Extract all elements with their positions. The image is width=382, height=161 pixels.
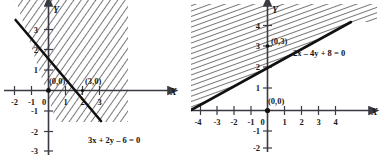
equation-label-left: 3x + 2y – 6 = 0 [88,135,140,145]
point-label-right: (0,3) [271,36,287,46]
y-axis-name-right: Y [272,4,279,15]
x-tick-label-right-6: 2 [299,117,303,127]
x-tick-label-right-5: 1 [282,117,286,127]
two-panel-inequality-figure: -2 -1 0 1 2 3 3 2 1 -1 -2 -3 [0,0,382,161]
equation-label-right: 2x – 4y + 8 = 0 [293,48,345,58]
y-tick-label-left-2: 1 [34,65,38,75]
intercept-point-right [266,44,270,48]
x-axis-name-left: X [169,86,177,97]
x-tick-label-right-1: -3 [213,117,220,127]
intercept-point-left [81,89,84,92]
y-tick-label-left-3: -1 [31,106,38,116]
graph-panel-right: -4 -3 -2 -1 0 1 2 3 4 4 3 2 1 -1 -2 [191,0,382,161]
x-tick-label-left-0: -2 [11,97,18,107]
x-tick-label-left-2: 0 [42,97,46,107]
left-graph-svg: -2 -1 0 1 2 3 3 2 1 -1 -2 -3 [0,0,191,161]
y-tick-label-left-4: -2 [31,127,38,137]
origin-point-left [46,88,51,93]
x-tick-label-right-7: 3 [316,117,320,127]
x-tick-label-right-0: -4 [194,117,202,127]
y-tick-label-right-4: -1 [253,126,260,136]
origin-label-right: (0,0) [268,96,284,106]
graph-panel-left: -2 -1 0 1 2 3 3 2 1 -1 -2 -3 [0,0,191,161]
y-tick-label-right-3: 1 [256,83,260,93]
x-tick-label-right-2: -2 [230,117,237,127]
x-tick-label-right-4: 0 [260,117,264,127]
y-tick-label-right-5: -2 [253,143,260,153]
y-tick-label-left-5: -3 [31,146,38,156]
x-tick-label-right-8: 4 [333,117,338,127]
y-tick-label-right-1: 3 [256,41,260,51]
right-graph-svg: -4 -3 -2 -1 0 1 2 3 4 4 3 2 1 -1 -2 [191,0,382,161]
shaded-region-right [191,0,382,161]
x-axis-name-right: X [370,106,378,117]
point-label-left: (3,0) [85,76,101,86]
y-axis-name-left: Y [53,4,60,15]
y-tick-label-left-0: 3 [34,25,38,35]
x-tick-label-left-5: 3 [97,97,101,107]
origin-point-right [265,108,270,113]
x-tick-label-left-3: 1 [63,97,67,107]
origin-label-left: (0,0) [49,76,65,86]
y-tick-label-right-2: 2 [256,62,260,72]
